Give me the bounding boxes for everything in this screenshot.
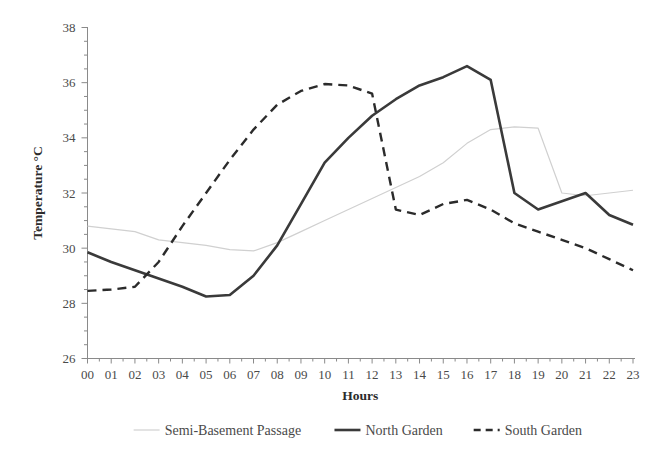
x-axis: 0001020304050607080910111213141516171819…: [81, 359, 640, 382]
series-line-semi-basement-passage: [88, 127, 634, 251]
y-axis-tick-label: 30: [63, 241, 76, 256]
x-axis-tick-label: 15: [437, 367, 450, 382]
series-line-south-garden: [88, 84, 634, 291]
y-axis-tick-label: 28: [63, 296, 76, 311]
y-axis-tick-label: 32: [63, 186, 76, 201]
chart-legend: Semi-Basement PassageNorth GardenSouth G…: [134, 423, 582, 438]
x-axis-tick-label: 16: [460, 367, 474, 382]
x-axis-tick-label: 19: [532, 367, 545, 382]
y-axis-tick-label: 36: [63, 75, 77, 90]
x-axis-tick-label: 17: [484, 367, 498, 382]
x-axis-tick-label: 21: [579, 367, 592, 382]
y-axis-tick-label: 38: [63, 20, 76, 35]
x-axis-tick-label: 23: [627, 367, 640, 382]
chart-canvas: 26283032343638 0001020304050607080910111…: [0, 0, 667, 457]
x-axis-tick-label: 09: [294, 367, 307, 382]
series-line-north-garden: [88, 66, 634, 296]
series-layer: [88, 66, 634, 296]
x-axis-tick-label: 00: [81, 367, 94, 382]
x-axis-tick-label: 10: [318, 367, 331, 382]
x-axis-tick-label: 02: [128, 367, 141, 382]
legend-label-semi-basement-passage: Semi-Basement Passage: [165, 423, 301, 438]
y-axis: 26283032343638: [63, 20, 89, 366]
x-axis-tick-label: 22: [603, 367, 616, 382]
x-axis-tick-label: 18: [508, 367, 521, 382]
x-axis-tick-label: 03: [152, 367, 165, 382]
y-axis-tick-label: 34: [63, 130, 77, 145]
y-axis-tick-label: 26: [63, 351, 77, 366]
x-axis-tick-label: 08: [271, 367, 284, 382]
y-axis-title: Temperature °C: [30, 146, 45, 240]
x-axis-tick-label: 13: [389, 367, 402, 382]
x-axis-tick-label: 11: [342, 367, 355, 382]
axis-titles: HoursTemperature °C: [30, 146, 378, 403]
x-axis-tick-label: 01: [105, 367, 118, 382]
legend-label-north-garden: North Garden: [365, 423, 442, 438]
x-axis-tick-label: 06: [223, 367, 237, 382]
temperature-line-chart: 26283032343638 0001020304050607080910111…: [0, 0, 667, 457]
legend-label-south-garden: South Garden: [505, 423, 582, 438]
x-axis-tick-label: 20: [555, 367, 568, 382]
x-axis-tick-label: 14: [413, 367, 427, 382]
x-axis-title: Hours: [342, 388, 378, 403]
x-axis-tick-label: 07: [247, 367, 261, 382]
x-axis-tick-label: 05: [200, 367, 213, 382]
x-axis-tick-label: 12: [366, 367, 379, 382]
x-axis-tick-label: 04: [176, 367, 190, 382]
